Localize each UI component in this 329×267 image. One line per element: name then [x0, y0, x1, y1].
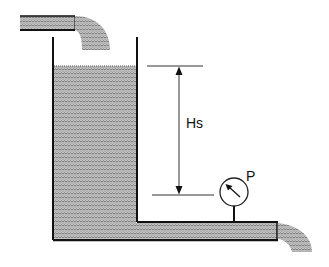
static-head-dimension: [147, 66, 214, 195]
pressure-gauge: [220, 178, 248, 222]
gauge-label: P: [246, 168, 255, 184]
inlet-stream: [75, 16, 110, 50]
diagram-canvas: Hs P: [0, 0, 329, 267]
inlet-pipe: [20, 16, 75, 30]
outlet-stream: [278, 223, 312, 252]
water-body: [54, 66, 277, 238]
arrow-down-icon: [176, 186, 183, 195]
arrow-up-icon: [176, 67, 183, 76]
head-label: Hs: [186, 115, 203, 131]
